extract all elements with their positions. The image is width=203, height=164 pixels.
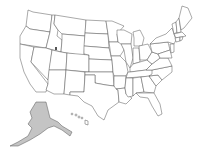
state-utah[interactable]: [49, 50, 67, 70]
state-new-jersey[interactable]: [170, 44, 174, 53]
state-connecticut[interactable]: [175, 37, 180, 42]
state-arkansas[interactable]: [114, 76, 126, 89]
state-south-dakota[interactable]: [84, 33, 109, 48]
state-new-york[interactable]: [150, 28, 176, 44]
state-rhode-island[interactable]: [180, 37, 183, 41]
lake-marker: [55, 47, 57, 50]
state-north-dakota[interactable]: [85, 20, 108, 34]
state-arizona[interactable]: [46, 70, 66, 94]
state-florida[interactable]: [136, 93, 162, 116]
state-wisconsin[interactable]: [117, 30, 132, 44]
state-maine[interactable]: [179, 6, 192, 30]
state-montana[interactable]: [54, 15, 86, 36]
state-mississippi[interactable]: [125, 78, 133, 97]
state-indiana[interactable]: [133, 48, 140, 64]
state-alaska[interactable]: [10, 102, 72, 146]
state-colorado[interactable]: [66, 53, 89, 72]
us-map: [0, 0, 203, 164]
state-kansas[interactable]: [89, 59, 113, 72]
state-new-mexico[interactable]: [64, 70, 85, 95]
state-michigan[interactable]: [133, 30, 144, 46]
state-hawaii[interactable]: [71, 113, 88, 125]
